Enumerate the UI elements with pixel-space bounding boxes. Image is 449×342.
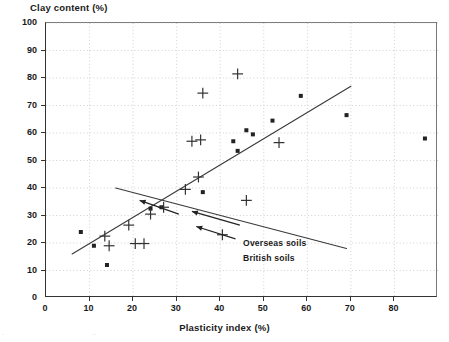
y-tick-label: 50 xyxy=(11,155,37,165)
x-tick-label: 80 xyxy=(378,303,408,313)
y-axis-title: Clay content (%) xyxy=(30,2,108,13)
x-tick-mark xyxy=(350,296,351,301)
y-tick-label: 10 xyxy=(11,265,37,275)
x-tick-mark xyxy=(306,296,307,301)
x-axis-title: Plasticity index (%) xyxy=(0,322,449,333)
y-tick-label: 60 xyxy=(11,127,37,137)
y-tick-mark xyxy=(41,132,46,133)
trend-lines xyxy=(72,86,351,254)
y-tick-mark xyxy=(41,242,46,243)
x-tick-label: 70 xyxy=(335,303,365,313)
page-artifact-right: ·· xyxy=(92,331,97,338)
y-tick-label: 90 xyxy=(11,45,37,55)
chart-canvas xyxy=(46,23,438,298)
y-tick-label: 70 xyxy=(11,100,37,110)
chart-figure: Clay content (%) 0102030405060708090100 … xyxy=(0,0,449,342)
x-tick-mark xyxy=(89,296,90,301)
y-tick-label: 0 xyxy=(11,292,37,302)
y-tick-mark xyxy=(41,215,46,216)
annotation-arrows xyxy=(140,200,240,239)
x-tick-mark xyxy=(263,296,264,301)
y-tick-mark xyxy=(41,187,46,188)
y-tick-label: 40 xyxy=(11,182,37,192)
x-tick-label: 0 xyxy=(30,303,60,313)
x-tick-mark xyxy=(219,296,220,301)
y-tick-label: 30 xyxy=(11,210,37,220)
y-tick-label: 100 xyxy=(11,17,37,27)
y-tick-mark xyxy=(41,160,46,161)
x-tick-label: 30 xyxy=(161,303,191,313)
grid-lines xyxy=(46,23,438,298)
plot-area xyxy=(45,22,437,297)
y-tick-mark xyxy=(41,50,46,51)
y-tick-mark xyxy=(41,77,46,78)
x-tick-label: 40 xyxy=(204,303,234,313)
x-tick-mark xyxy=(393,296,394,301)
y-tick-mark xyxy=(41,105,46,106)
x-tick-mark xyxy=(132,296,133,301)
annotation-overseas-soils: Overseas soils xyxy=(243,238,306,248)
y-tick-label: 80 xyxy=(11,72,37,82)
annotation-british-soils: British soils xyxy=(243,253,295,263)
page-artifact-left: · xyxy=(2,331,4,338)
x-tick-label: 10 xyxy=(74,303,104,313)
x-tick-mark xyxy=(176,296,177,301)
y-tick-mark xyxy=(41,270,46,271)
x-tick-label: 60 xyxy=(291,303,321,313)
y-tick-label: 20 xyxy=(11,237,37,247)
x-tick-label: 20 xyxy=(117,303,147,313)
x-tick-label: 50 xyxy=(248,303,278,313)
